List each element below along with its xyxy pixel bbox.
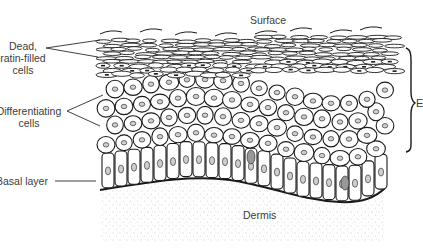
basal-layer-label: Basal layer — [0, 175, 48, 187]
differentiating-cells-label-line1: Differentiating — [0, 105, 64, 117]
dead-cells-label: Dead, eratin-filled cells — [0, 40, 50, 76]
cell-layers — [96, 27, 405, 201]
epidermis-bracket — [406, 48, 415, 152]
epidermis-bracket-label: E — [416, 97, 423, 109]
differentiating-cells-label-line2: cells — [0, 117, 64, 129]
surface-label: Surface — [250, 14, 286, 26]
dead-cells-label-line3: cells — [0, 64, 50, 76]
dermis-label: Dermis — [243, 209, 276, 221]
dead-cells-label-line1: Dead, — [0, 40, 50, 52]
dead-cells-label-line2: eratin-filled — [0, 52, 50, 64]
differentiating-cells-label: Differentiating cells — [0, 105, 64, 129]
